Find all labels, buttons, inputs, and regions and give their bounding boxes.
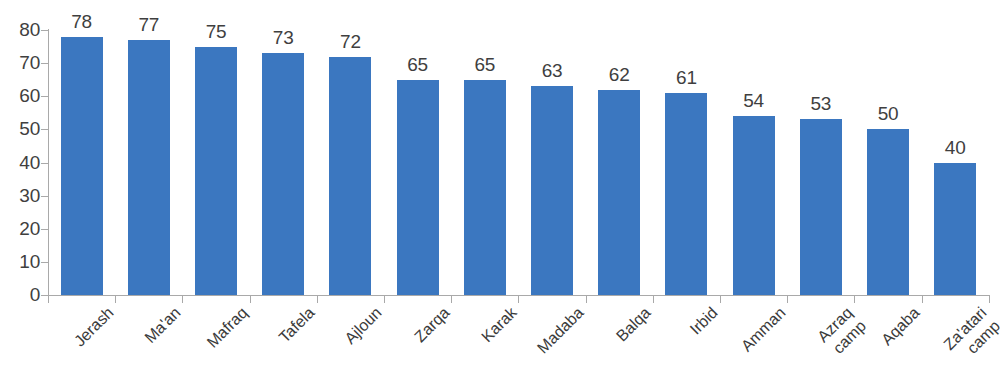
y-axis-tick-mark [41,63,49,64]
y-axis-tick-mark [41,262,49,263]
y-axis-tick-mark [41,30,49,31]
bar[interactable] [598,90,640,295]
y-axis-tick-label: 60 [6,85,40,107]
y-axis-tick-label: 70 [6,52,40,74]
y-axis-tick-mark [41,229,49,230]
x-axis-tick-mark [317,296,318,303]
bar[interactable] [61,37,103,295]
y-axis-tick-label: 20 [6,218,40,240]
bar-value-label: 53 [791,93,851,114]
x-axis-tick-mark [115,296,116,303]
x-axis-line [48,295,990,296]
bar[interactable] [867,129,909,295]
bar[interactable] [329,57,371,296]
bar[interactable] [665,93,707,295]
bar[interactable] [397,80,439,295]
y-axis-tick-label: 40 [6,152,40,174]
x-axis-tick-mark [720,296,721,303]
bar[interactable] [195,47,237,295]
y-axis-tick-label: 0 [6,284,40,306]
y-axis-tick-label: 30 [6,185,40,207]
bar-value-label: 40 [925,137,985,158]
y-axis-tick-mark [41,196,49,197]
x-axis-category-label: Jerash [0,303,117,378]
x-axis-tick-mark [586,296,587,303]
bar-value-label: 62 [589,64,649,85]
bar[interactable] [531,86,573,295]
x-axis-tick-mark [384,296,385,303]
y-axis-tick-label: 50 [6,118,40,140]
x-axis-tick-mark [48,296,49,303]
bar[interactable] [733,116,775,295]
x-axis-tick-mark [182,296,183,303]
bar-value-label: 50 [858,103,918,124]
x-axis-tick-mark [653,296,654,303]
x-axis-tick-mark [922,296,923,303]
bar-value-label: 54 [724,90,784,111]
bar-value-label: 78 [52,11,112,32]
bar-value-label: 72 [320,31,380,52]
bar[interactable] [128,40,170,295]
y-axis-tick-mark [41,96,49,97]
bar-value-label: 65 [455,54,515,75]
y-axis-tick-mark [41,129,49,130]
x-axis-tick-mark [787,296,788,303]
x-axis-tick-mark [989,296,990,303]
x-axis-tick-mark [854,296,855,303]
bar[interactable] [464,80,506,295]
bar[interactable] [800,119,842,295]
x-axis-tick-mark [451,296,452,303]
bar-value-label: 77 [119,14,179,35]
bar-value-label: 73 [253,27,313,48]
bar[interactable] [262,53,304,295]
bar-value-label: 65 [388,54,448,75]
bar-value-label: 63 [522,60,582,81]
x-axis-tick-mark [518,296,519,303]
bar-value-label: 75 [186,21,246,42]
bar[interactable] [934,163,976,296]
y-axis-tick-label: 80 [6,19,40,41]
y-axis-tick-mark [41,163,49,164]
x-axis-tick-mark [250,296,251,303]
bar-value-label: 61 [656,67,716,88]
y-axis-tick-label: 10 [6,251,40,273]
